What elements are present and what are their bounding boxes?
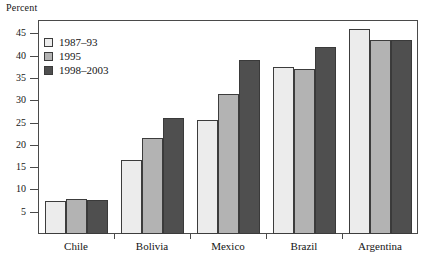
- y-axis-tick: [30, 78, 38, 79]
- bar: [239, 60, 260, 234]
- legend-item-label: 1998–2003: [59, 65, 109, 76]
- bar-group: [349, 20, 412, 234]
- y-axis-tick: [30, 123, 38, 124]
- y-axis-tick: [30, 33, 38, 34]
- bar: [391, 40, 412, 234]
- y-axis-tick-label: 30: [0, 95, 26, 105]
- bar: [349, 29, 370, 234]
- bar: [66, 199, 87, 234]
- bar-group: [121, 20, 184, 234]
- y-axis-tick-label: 35: [0, 73, 26, 83]
- x-axis-tick: [266, 234, 267, 239]
- bar: [121, 160, 142, 234]
- legend: 1987–9319951998–2003: [44, 36, 109, 78]
- legend-item-label: 1995: [59, 51, 81, 62]
- y-axis-tick-label: 5: [0, 207, 26, 217]
- y-axis-tick-label: 15: [0, 162, 26, 172]
- y-axis-tick: [30, 100, 38, 101]
- legend-swatch-icon: [44, 52, 53, 61]
- y-axis-tick: [30, 145, 38, 146]
- y-axis-tick-label: 45: [0, 28, 26, 38]
- chart-canvas: Percent 51015202530354045 ChileBoliviaMe…: [0, 0, 426, 264]
- bar: [197, 120, 218, 234]
- bar-group: [273, 20, 336, 234]
- y-axis-title: Percent: [6, 2, 37, 13]
- bar: [370, 40, 391, 234]
- bar: [273, 67, 294, 234]
- x-axis-tick: [114, 234, 115, 239]
- y-axis-tick-label: 25: [0, 118, 26, 128]
- legend-item: 1995: [44, 50, 109, 63]
- legend-swatch-icon: [44, 66, 53, 75]
- y-axis-tick: [30, 189, 38, 190]
- bar: [294, 69, 315, 234]
- bar: [87, 200, 108, 234]
- y-axis-tick: [30, 167, 38, 168]
- bar: [45, 201, 66, 234]
- bar: [315, 47, 336, 234]
- x-axis-tick: [190, 234, 191, 239]
- y-axis-tick-label: 10: [0, 184, 26, 194]
- y-axis-tick: [30, 212, 38, 213]
- x-axis-tick: [342, 234, 343, 239]
- legend-item: 1987–93: [44, 36, 109, 49]
- x-axis-category-label: Argentina: [330, 240, 426, 252]
- bar-group: [197, 20, 260, 234]
- y-axis-tick-label: 40: [0, 51, 26, 61]
- bar: [163, 118, 184, 234]
- bar: [142, 138, 163, 234]
- legend-item: 1998–2003: [44, 64, 109, 77]
- y-axis-tick: [30, 56, 38, 57]
- legend-item-label: 1987–93: [59, 37, 98, 48]
- bar: [218, 94, 239, 234]
- legend-swatch-icon: [44, 38, 53, 47]
- y-axis-tick-label: 20: [0, 140, 26, 150]
